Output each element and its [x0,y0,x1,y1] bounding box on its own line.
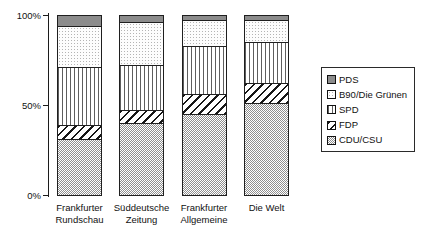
y-tick-mark [43,105,48,106]
x-category-label-die-welt: Die Welt [228,202,306,214]
y-tick-mark [43,15,48,16]
legend-swatch-cdu-csu-icon [327,136,336,145]
segment-cdu-csu-die-welt [244,103,289,196]
y-tick-mark [43,195,48,196]
legend-item-spd: SPD [327,102,410,117]
segment-spd-suddeutsche-zeitung [119,65,164,111]
y-axis-line [48,13,49,197]
y-tick-label: 100% [0,10,41,21]
segment-spd-frankfurter-allgemeine [182,46,227,96]
segment-pds-die-welt [244,15,289,21]
segment-fdp-die-welt [244,83,289,104]
x-category-label-line: Die Welt [228,202,306,214]
legend: PDSB90/Die GrünenSPDFDPCDU/CSU [321,67,415,152]
legend-item-fdp: FDP [327,118,410,133]
segment-b90-die-grunen-die-welt [244,20,289,43]
legend-label: CDU/CSU [339,135,382,145]
legend-item-cdu-csu: CDU/CSU [327,133,410,148]
segment-b90-die-grunen-frankfurter-allgemeine [182,20,227,46]
legend-item-b90-die-grunen: B90/Die Grünen [327,87,410,102]
legend-swatch-spd-icon [327,105,336,114]
segment-b90-die-grunen-suddeutsche-zeitung [119,22,164,66]
legend-swatch-fdp-icon [327,121,336,130]
segment-fdp-suddeutsche-zeitung [119,110,164,124]
legend-label: FDP [339,120,358,130]
legend-swatch-pds-icon [327,75,336,84]
legend-label: SPD [339,105,359,115]
segment-cdu-csu-frankfurter-rundschau [57,139,102,196]
segment-spd-frankfurter-rundschau [57,67,102,126]
segment-cdu-csu-frankfurter-allgemeine [182,114,227,196]
segment-cdu-csu-suddeutsche-zeitung [119,123,164,196]
y-tick-label: 0% [0,190,41,201]
segment-fdp-frankfurter-allgemeine [182,94,227,115]
legend-item-pds: PDS [327,72,410,87]
segment-b90-die-grunen-frankfurter-rundschau [57,26,102,68]
stacked-bar-chart-figure: 0%50%100% FrankfurterRundschauSüddeutsch… [0,0,424,239]
segment-pds-suddeutsche-zeitung [119,15,164,23]
x-category-label-line: Allgemeine [165,214,243,226]
segment-pds-frankfurter-rundschau [57,15,102,27]
y-tick-label: 50% [0,100,41,111]
legend-label: B90/Die Grünen [339,90,407,100]
segment-fdp-frankfurter-rundschau [57,125,102,140]
segment-pds-frankfurter-allgemeine [182,15,227,21]
legend-swatch-b90-die-grunen-icon [327,90,336,99]
legend-label: PDS [339,75,359,85]
segment-spd-die-welt [244,42,289,84]
